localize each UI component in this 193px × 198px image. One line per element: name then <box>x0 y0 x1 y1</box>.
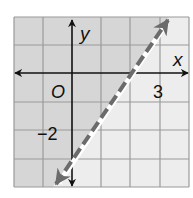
y-axis-label: y <box>78 23 91 44</box>
x-tick-label-3: 3 <box>153 82 163 102</box>
coordinate-graph: y x O 3 −2 <box>0 0 193 198</box>
x-axis-label: x <box>172 49 184 70</box>
origin-label: O <box>51 82 65 102</box>
y-tick-label-neg2: −2 <box>37 124 58 144</box>
